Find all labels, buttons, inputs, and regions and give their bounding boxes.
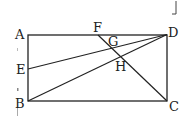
segment-bd (28, 35, 167, 102)
label-c: C (169, 99, 179, 114)
label-f: F (93, 20, 102, 35)
label-h: H (115, 59, 126, 74)
label-g: G (108, 34, 118, 49)
label-e: E (16, 62, 26, 77)
label-b: B (15, 96, 25, 111)
edge-artifact (17, 48, 18, 51)
geometry-diagram: A E B C D F G H (0, 0, 190, 120)
label-d: D (168, 25, 178, 40)
label-a: A (14, 27, 25, 42)
edge-artifact (17, 88, 19, 91)
segment-ed (28, 35, 167, 70)
bracket-fragment (172, 1, 176, 14)
